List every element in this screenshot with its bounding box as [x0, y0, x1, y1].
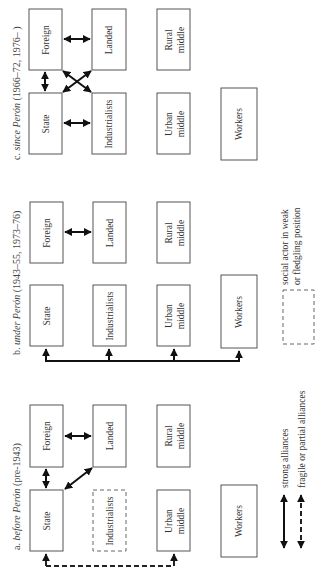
panel-a-title: a. before Perón (pre-1943) — [11, 443, 23, 550]
actor-foreign: Foreign — [30, 202, 63, 263]
alliance-state-landed — [65, 468, 92, 489]
svg-text:Foreign: Foreign — [42, 421, 52, 451]
svg-text:middle: middle — [176, 111, 186, 137]
svg-text:State: State — [42, 307, 52, 326]
actor-rural-middle: Rural middle — [157, 202, 190, 263]
panel-c: c. since Perón (1966–72, 1976– ) Foreign… — [11, 9, 257, 160]
svg-text:or fledgling position: or fledgling position — [292, 207, 302, 285]
svg-text:strong alliances: strong alliances — [280, 428, 290, 488]
svg-text:middle: middle — [176, 27, 186, 53]
actor-foreign: Foreign — [29, 9, 62, 70]
svg-text:Rural: Rural — [164, 425, 174, 446]
actor-workers: Workers — [221, 485, 257, 557]
svg-text:middle: middle — [176, 303, 186, 329]
svg-text:State: State — [41, 115, 51, 134]
actor-workers: Workers — [221, 275, 257, 348]
svg-text:middle: middle — [176, 508, 186, 534]
alliance-diagram: c. since Perón (1966–72, 1976– ) Foreign… — [0, 0, 321, 587]
panel-b-title: b. under Perón (1943–55, 1973–76) — [11, 211, 23, 355]
actor-state: State — [30, 285, 63, 346]
svg-text:State: State — [42, 512, 52, 531]
svg-text:Industrialists: Industrialists — [105, 291, 115, 340]
svg-text:middle: middle — [176, 423, 186, 449]
alliance-state-urban-fragile — [46, 554, 174, 566]
panel-b: b. under Perón (1943–55, 1973–76) Foreig… — [11, 202, 257, 362]
svg-text:Landed: Landed — [105, 422, 115, 451]
actor-urban-middle: Urban middle — [157, 93, 190, 154]
svg-text:Industrialists: Industrialists — [105, 496, 115, 545]
svg-text:Urban: Urban — [164, 509, 174, 533]
svg-text:Rural: Rural — [164, 222, 174, 243]
svg-text:social actor in weak: social actor in weak — [280, 209, 290, 285]
actor-foreign: Foreign — [30, 405, 63, 467]
actor-workers: Workers — [221, 88, 257, 160]
svg-text:Landed: Landed — [104, 26, 114, 55]
svg-text:Urban: Urban — [164, 112, 174, 136]
svg-text:Workers: Workers — [234, 505, 244, 537]
legend-weak-actor: social actor in weak or fledgling positi… — [280, 207, 314, 344]
svg-text:Workers: Workers — [234, 296, 244, 328]
svg-text:middle: middle — [176, 220, 186, 246]
actor-industrialists: Industrialists — [93, 285, 126, 346]
actor-urban-middle: Urban middle — [157, 490, 190, 551]
panel-c-title: c. since Perón (1966–72, 1976– ) — [11, 26, 23, 160]
actor-state: State — [30, 490, 63, 551]
actor-landed: Landed — [93, 405, 126, 467]
actor-urban-middle: Urban middle — [157, 285, 190, 346]
svg-text:Rural: Rural — [164, 29, 174, 50]
alliance-populist-bracket — [46, 349, 239, 362]
svg-text:Urban: Urban — [164, 304, 174, 328]
svg-text:Foreign: Foreign — [41, 25, 51, 55]
actor-industrialists: Industrialists — [92, 93, 126, 154]
legend-strong: strong alliances — [280, 428, 290, 548]
panel-a: a. before Perón (pre-1943) Foreign Lande… — [11, 405, 257, 566]
svg-text:fragile or partial alliances: fragile or partial alliances — [297, 390, 307, 488]
actor-rural-middle: Rural middle — [157, 405, 190, 467]
svg-text:Landed: Landed — [105, 219, 115, 248]
legend: strong alliances fragile or partial alli… — [280, 207, 314, 548]
svg-text:Foreign: Foreign — [42, 218, 52, 248]
actor-landed: Landed — [93, 202, 126, 263]
svg-text:Industrialists: Industrialists — [104, 99, 114, 148]
actor-industrialists-weak: Industrialists — [93, 490, 126, 551]
actor-landed: Landed — [92, 9, 126, 70]
svg-text:Workers: Workers — [234, 108, 244, 140]
actor-rural-middle: Rural middle — [157, 9, 190, 70]
actor-state: State — [29, 93, 62, 154]
legend-fragile: fragile or partial alliances — [297, 390, 307, 548]
